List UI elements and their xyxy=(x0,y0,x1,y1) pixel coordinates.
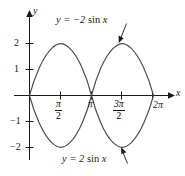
x-tick-3pi-over-2-denominator: 2 xyxy=(115,112,122,122)
y-tick-label-1: 1 xyxy=(14,64,19,74)
y-tick-label-2: 2 xyxy=(14,38,19,48)
y-tick-label-neg-2: −2 xyxy=(10,142,21,152)
x-tick-label-pi: π xyxy=(88,100,93,110)
annotation-negative-two-sin-x: y = −2 sin x xyxy=(56,15,108,26)
top-annotation-leader xyxy=(121,24,127,38)
sine-curves-figure: y x 2 1 −1 −2 π 2 π 3π 2 2π y = −2 sin x… xyxy=(0,0,185,176)
annotation-bottom-function: sin xyxy=(87,153,99,164)
y-axis-arrowhead xyxy=(26,10,33,17)
x-tick-3pi-over-2-numerator: 3π xyxy=(113,100,125,110)
annotation-top-variable: x xyxy=(100,14,107,25)
bottom-annotation-arrowhead xyxy=(121,147,126,154)
x-tick-label-pi-over-2: π 2 xyxy=(55,100,62,122)
bottom-annotation-leader xyxy=(123,153,128,164)
plot-canvas xyxy=(0,0,185,176)
y-tick-label-neg-1: −1 xyxy=(10,116,21,126)
x-tick-label-2pi: 2π xyxy=(153,100,163,110)
x-axis-label: x xyxy=(176,88,180,98)
x-tick-pi-over-2-denominator: 2 xyxy=(55,112,62,122)
annotation-top-function: sin xyxy=(88,14,100,25)
annotation-two-sin-x: y = 2 sin x xyxy=(62,154,106,165)
x-axis-arrowhead xyxy=(168,92,175,99)
y-axis-label: y xyxy=(33,6,37,16)
x-tick-label-3pi-over-2: 3π 2 xyxy=(113,100,125,122)
annotation-bottom-prefix: y = 2 xyxy=(62,153,87,164)
annotation-top-prefix: y = −2 xyxy=(56,14,88,25)
x-tick-pi-over-2-numerator: π xyxy=(55,100,62,110)
annotation-bottom-variable: x xyxy=(99,153,106,164)
